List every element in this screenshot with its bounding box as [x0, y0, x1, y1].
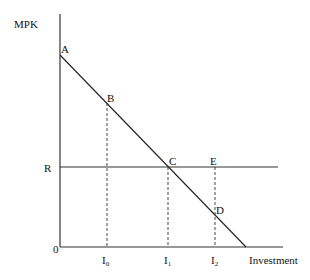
- point-a-label: A: [61, 43, 69, 55]
- mpk-investment-diagram: MPK A B C E D R 0 I0 I1 I2 Investment: [0, 0, 310, 280]
- point-e-label: E: [210, 155, 217, 167]
- tick-i1: I1: [164, 254, 172, 268]
- rate-label: R: [44, 162, 52, 174]
- mpk-line: [60, 55, 246, 247]
- tick-i2: I2: [211, 254, 219, 268]
- origin-label: 0: [53, 243, 59, 255]
- x-axis-label: Investment: [249, 254, 298, 266]
- point-c-label: C: [169, 155, 176, 167]
- y-axis-label: MPK: [14, 18, 38, 30]
- point-b-label: B: [107, 92, 114, 104]
- point-d-label: D: [216, 204, 224, 216]
- tick-i0: I0: [102, 254, 110, 268]
